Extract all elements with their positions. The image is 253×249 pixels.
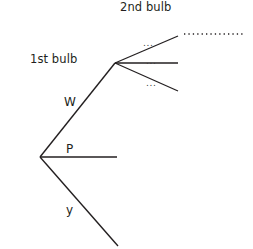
branch-label-w-1: ... [143,39,153,48]
branch-label-w: W [64,96,76,108]
branch-label-w-3: ... [146,79,156,88]
heading-second-bulb: 2nd bulb [120,2,171,14]
branch-label-w-2: ... [146,57,156,66]
branch-line-w [40,63,115,157]
probability-tree-diagram [0,0,253,249]
heading-first-bulb: 1st bulb [30,54,77,66]
branch-label-y: y [66,204,73,216]
branch-label-p: P [66,143,73,155]
branch-line-y [40,157,118,246]
